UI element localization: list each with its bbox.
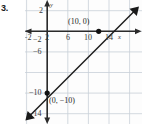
x-axis-label: x xyxy=(118,34,121,41)
x-tick-label-2: 2 xyxy=(45,34,49,42)
x-tick-label-10: 10 xyxy=(84,34,92,42)
coordinate-plane: −2 2 6 10 14 2 −2 −6 −10 −14 y x (10, 0)… xyxy=(25,0,142,124)
x-tick-label-14: 14 xyxy=(105,34,113,42)
y-tick-label--10: −10 xyxy=(29,89,42,97)
point-label-x-intercept: (10, 0) xyxy=(68,18,89,26)
point-x-intercept xyxy=(96,29,101,34)
y-tick-label-2: 2 xyxy=(39,7,43,15)
x-tick-label--2: −2 xyxy=(25,34,32,42)
point-y-intercept xyxy=(45,91,50,96)
point-label-y-intercept: (0, −10) xyxy=(49,97,75,105)
problem-number: 3. xyxy=(1,3,8,13)
x-axis-arrow-right xyxy=(135,28,142,34)
y-axis-label: y xyxy=(50,2,53,9)
y-axis-arrow-down xyxy=(44,118,50,125)
y-tick-label--2: −2 xyxy=(33,36,42,44)
y-tick-label--14: −14 xyxy=(29,110,42,118)
x-tick-label-6: 6 xyxy=(66,34,70,42)
figure-container: 3. xyxy=(0,0,144,126)
data-points xyxy=(45,29,102,96)
y-tick-label--6: −6 xyxy=(33,48,42,56)
